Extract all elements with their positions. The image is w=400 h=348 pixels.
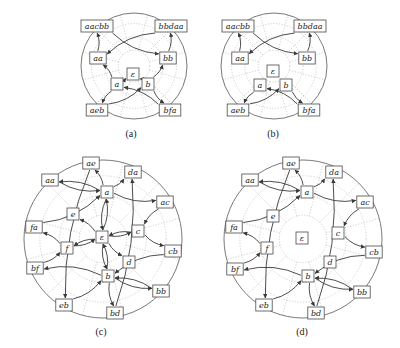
node-label: c: [336, 229, 341, 238]
edge-aa-to-a: [259, 182, 300, 191]
node-label: ac: [360, 198, 370, 207]
panel-caption: (c): [95, 326, 106, 338]
node-a: a: [254, 79, 266, 91]
edge-eb-to-b: [73, 281, 101, 299]
node-d: d: [123, 256, 135, 268]
node-cb: cb: [165, 245, 181, 257]
node-label: a: [115, 80, 120, 89]
edge-a-to-ae: [295, 170, 303, 185]
node-da: da: [125, 166, 141, 178]
node-label: d: [126, 258, 131, 267]
node-label: bbdaa: [159, 22, 184, 31]
node-label: bfa: [164, 106, 177, 115]
edge-a-to-ac: [314, 193, 356, 201]
node-bb: bb: [153, 285, 169, 297]
node-bfa: bfa: [159, 104, 181, 116]
node-a: a: [301, 186, 313, 198]
edge-a-to-ac: [114, 193, 156, 201]
node-label: aa: [45, 176, 55, 185]
node-eb: eb: [256, 299, 272, 311]
node-d: d: [324, 256, 336, 268]
node-label: e: [71, 210, 76, 219]
node-bf: bf: [227, 263, 243, 275]
node-label: a: [105, 188, 110, 197]
edge-a-to-eps: [101, 199, 106, 230]
edge-f-to-fa: [43, 233, 60, 244]
panel-a: aacbbbbdaaaabbεabaebbfa(a): [81, 13, 187, 140]
node-label: fa: [229, 223, 238, 232]
edge-a-to-da: [314, 179, 325, 187]
edge-ac-to-c: [344, 209, 359, 226]
node-label: fa: [29, 223, 38, 232]
node-bd: bd: [107, 307, 123, 319]
node-c: c: [132, 225, 144, 237]
figure-canvas: aacbbbbdaaaabbεabaebbfa(a) aacbbbbdaaaab…: [0, 0, 400, 348]
node-label: eb: [259, 301, 269, 310]
node-ae: ae: [83, 157, 99, 169]
node-eb: eb: [56, 299, 72, 311]
node-aeb: aeb: [86, 104, 108, 116]
node-b: b: [280, 79, 292, 91]
node-bbdaa: bbdaa: [294, 20, 326, 32]
node-label: bb: [302, 54, 312, 63]
panel-d: aedaaaaacefaεcfcbdbfbbbebbd(d): [224, 157, 382, 338]
node-a: a: [101, 186, 113, 198]
node-label: da: [329, 168, 339, 177]
node-fa: fa: [26, 221, 42, 233]
edge-a-to-ae: [95, 170, 103, 185]
node-aa: aa: [242, 174, 258, 186]
node-bd: bd: [308, 307, 324, 319]
edge-aacbb-to-bb: [253, 33, 298, 54]
edge-aa-to-a: [59, 182, 100, 191]
node-bfa: bfa: [298, 104, 320, 116]
node-aa: aa: [90, 52, 106, 64]
node-label: bb: [156, 287, 166, 296]
node-label: bb: [357, 288, 367, 297]
node-aa: aa: [232, 52, 248, 64]
edge-a-to-aeb: [244, 92, 254, 103]
node-bf: bf: [27, 262, 43, 274]
grid-ray: [260, 15, 270, 51]
edge-eps-to-d: [109, 244, 122, 256]
node-label: bb: [163, 54, 173, 63]
node-c: c: [332, 227, 344, 239]
node-label: aa: [93, 54, 103, 63]
node-label: ε: [100, 233, 104, 242]
edge-f-to-fa: [243, 233, 260, 244]
edge-aa-to-aacbb: [238, 33, 240, 51]
edge-cb-to-b: [115, 255, 164, 274]
node-bb: bb: [160, 52, 176, 64]
node-aacbb: aacbb: [222, 20, 254, 32]
node-label: b: [283, 81, 288, 90]
node-eps: ε: [127, 68, 139, 80]
node-label: eb: [59, 301, 69, 310]
grid-ray: [320, 183, 359, 222]
node-eps: ε: [267, 65, 279, 77]
node-label: ε: [300, 234, 304, 243]
edge-a-to-aa: [259, 181, 300, 190]
edge-bb-to-bbdaa: [169, 33, 172, 51]
node-bb: bb: [299, 52, 315, 64]
node-label: bd: [110, 309, 120, 318]
edge-eps-to-a: [103, 199, 108, 230]
panel-caption: (d): [296, 326, 308, 338]
edge-aacbb-to-bb: [113, 33, 159, 54]
node-b: b: [142, 78, 154, 90]
edge-a-to-aeb: [102, 91, 111, 103]
node-b: b: [302, 270, 314, 282]
node-label: ac: [160, 198, 170, 207]
node-bbdaa: bbdaa: [155, 20, 187, 32]
edge-c-to-cb: [145, 235, 164, 246]
node-label: aa: [235, 54, 245, 63]
grid-ray: [149, 70, 185, 80]
node-label: aacbb: [85, 22, 109, 31]
grid-ray: [145, 29, 171, 55]
node-label: bfa: [303, 106, 316, 115]
edge-c-to-cb: [345, 237, 365, 247]
grid-ray: [97, 29, 123, 55]
node-label: e: [271, 212, 276, 221]
panel-caption: (b): [267, 128, 279, 140]
node-label: c: [136, 227, 141, 236]
node-label: b: [105, 272, 110, 281]
node-fa: fa: [226, 221, 242, 233]
